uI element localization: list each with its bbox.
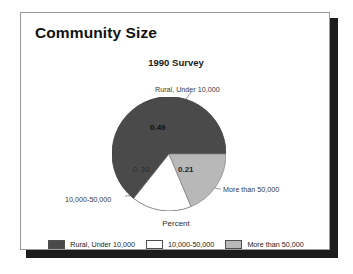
legend-swatch-large xyxy=(225,240,242,249)
legend-label-rural: Rural, Under 10,000 xyxy=(70,240,135,249)
legend-label-large: More than 50,000 xyxy=(247,240,303,249)
legend-item-rural[interactable]: Rural, Under 10,000 xyxy=(48,240,135,249)
chart-panel: Community Size 1990 Survey 0.49 0.30 0.2… xyxy=(20,12,330,250)
callout-label-rural: Rural, Under 10,000 xyxy=(155,85,220,94)
slice-value-rural: 0.49 xyxy=(150,123,166,132)
callout-label-large: More than 50,000 xyxy=(223,185,279,194)
pie-graphic xyxy=(112,97,226,211)
slice-value-large: 0.21 xyxy=(178,165,194,174)
legend-item-mid[interactable]: 10,000-50,000 xyxy=(146,240,214,249)
legend-swatch-rural xyxy=(48,240,65,249)
pie-chart-plot: 0.49 0.30 0.21 Rural, Under 10,000 10,00… xyxy=(21,13,331,251)
legend-swatch-mid xyxy=(146,240,163,249)
callout-label-mid: 10,000-50,000 xyxy=(65,195,111,204)
legend-label-mid: 10,000-50,000 xyxy=(168,240,214,249)
slice-value-mid: 0.30 xyxy=(133,165,150,174)
legend-item-large[interactable]: More than 50,000 xyxy=(225,240,303,249)
chart-legend: Rural, Under 10,000 10,000-50,000 More t… xyxy=(21,240,331,249)
axis-label-percent: Percent xyxy=(21,219,331,228)
